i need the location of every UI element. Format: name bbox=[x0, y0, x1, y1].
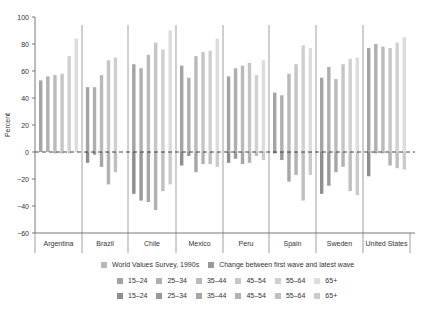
bar-survey bbox=[280, 95, 283, 152]
swatch-icon bbox=[208, 262, 214, 268]
bar-survey bbox=[194, 56, 197, 152]
y-tick-label: −40 bbox=[17, 203, 29, 210]
legend-label: 65+ bbox=[325, 292, 337, 299]
bar-survey bbox=[309, 48, 312, 152]
legend-label: 45–54 bbox=[246, 292, 265, 299]
bar-survey bbox=[388, 48, 391, 152]
y-tick-label: 100 bbox=[17, 14, 29, 21]
bar-survey bbox=[216, 39, 219, 152]
bar-survey bbox=[139, 68, 142, 152]
legend-label: 25–34 bbox=[167, 292, 186, 299]
legend-item-survey-age: 65+ bbox=[314, 277, 337, 284]
bar-change bbox=[395, 152, 398, 168]
bar-survey bbox=[201, 52, 204, 152]
swatch-icon bbox=[196, 278, 202, 284]
bar-change bbox=[334, 152, 337, 172]
bar-survey bbox=[67, 56, 70, 152]
x-category-label: United States bbox=[365, 240, 408, 247]
bar-survey bbox=[348, 59, 351, 152]
bar-change bbox=[187, 152, 190, 156]
bar-change bbox=[388, 152, 391, 166]
bar-change bbox=[180, 152, 183, 166]
y-axis-label: Percent bbox=[4, 113, 11, 137]
swatch-icon bbox=[156, 278, 162, 284]
bar-change bbox=[367, 152, 370, 176]
bar-change bbox=[327, 152, 330, 186]
y-tick-label: 60 bbox=[21, 68, 29, 75]
bar-survey bbox=[161, 49, 164, 152]
bar-change bbox=[341, 152, 344, 167]
bar-change bbox=[294, 152, 297, 175]
x-category-label: Mexico bbox=[188, 240, 210, 247]
y-tick-label: 40 bbox=[21, 95, 29, 102]
bar-change bbox=[139, 152, 142, 201]
bar-survey bbox=[273, 93, 276, 152]
legend-label: 35–44 bbox=[207, 277, 226, 284]
bar-change bbox=[201, 152, 204, 164]
legend-row-change: 15–2425–3435–4445–5455–6465+ bbox=[117, 292, 346, 299]
bar-survey bbox=[208, 51, 211, 152]
bar-change bbox=[208, 152, 211, 164]
bar-survey bbox=[301, 45, 304, 152]
x-category-label: Sweden bbox=[327, 240, 352, 247]
bar-change bbox=[216, 152, 219, 167]
y-tick-label: 80 bbox=[21, 41, 29, 48]
bar-change bbox=[241, 152, 244, 164]
bar-survey bbox=[46, 76, 49, 152]
bar-survey bbox=[234, 68, 237, 152]
x-category-label: Spain bbox=[284, 240, 302, 248]
bar-change bbox=[100, 152, 103, 167]
bar-survey bbox=[93, 87, 96, 152]
swatch-icon bbox=[314, 293, 320, 299]
bar-change bbox=[309, 152, 312, 175]
y-tick-label: 20 bbox=[21, 122, 29, 129]
legend-header-row: World Values Survey, 1990s Change betwee… bbox=[101, 261, 363, 268]
bar-survey bbox=[168, 31, 171, 153]
legend-label: Change between first wave and latest wav… bbox=[219, 261, 354, 268]
bar-survey bbox=[287, 74, 290, 152]
bar-change bbox=[348, 152, 351, 191]
bar-change bbox=[320, 152, 323, 194]
legend-label: 15–24 bbox=[128, 292, 147, 299]
legend-label: 65+ bbox=[325, 277, 337, 284]
x-category-label: Chile bbox=[144, 240, 160, 247]
swatch-icon bbox=[101, 262, 107, 268]
bar-change bbox=[154, 152, 157, 210]
legend-label: 45–54 bbox=[246, 277, 265, 284]
bar-survey bbox=[100, 75, 103, 152]
bar-change bbox=[168, 152, 171, 184]
legend-item-survey-age: 15–24 bbox=[117, 277, 147, 284]
bar-survey bbox=[334, 79, 337, 152]
swatch-icon bbox=[196, 293, 202, 299]
bar-change bbox=[262, 152, 265, 160]
bar-survey bbox=[227, 76, 230, 152]
bar-change bbox=[301, 152, 304, 201]
legend-item-change-age: 25–34 bbox=[156, 292, 186, 299]
bar-survey bbox=[367, 48, 370, 152]
bar-survey bbox=[327, 67, 330, 152]
bar-change bbox=[161, 152, 164, 191]
legend-label: 35–44 bbox=[207, 292, 226, 299]
bar-survey bbox=[187, 78, 190, 152]
bar-change bbox=[107, 152, 110, 184]
bar-change bbox=[255, 152, 258, 156]
legend-item-survey-age: 45–54 bbox=[235, 277, 265, 284]
bar-change bbox=[234, 152, 237, 159]
bar-survey bbox=[86, 87, 89, 152]
legend-label: World Values Survey, 1990s bbox=[112, 261, 199, 268]
bar-change bbox=[403, 152, 406, 170]
bar-survey bbox=[395, 43, 398, 152]
swatch-icon bbox=[117, 293, 123, 299]
legend-item-change-age: 15–24 bbox=[117, 292, 147, 299]
legend-item-survey-age: 25–34 bbox=[156, 277, 186, 284]
bar-survey bbox=[403, 37, 406, 152]
bar-survey bbox=[262, 60, 265, 152]
legend-item-change-age: 45–54 bbox=[235, 292, 265, 299]
bar-survey bbox=[39, 80, 42, 152]
bar-survey bbox=[180, 66, 183, 152]
legend-item-survey-age: 55–64 bbox=[275, 277, 305, 284]
x-category-label: Argentina bbox=[44, 240, 74, 248]
bar-survey bbox=[107, 60, 110, 152]
swatch-icon bbox=[235, 278, 241, 284]
bar-change bbox=[147, 152, 150, 202]
